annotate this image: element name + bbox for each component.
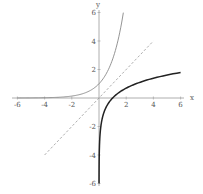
ln-curve xyxy=(99,72,181,183)
y-tick-label: -4 xyxy=(89,152,96,160)
chart: -6-4-2246642-2-4-6 x y xyxy=(0,0,203,194)
x-tick-label: 4 xyxy=(151,101,156,109)
x-tick-label: -6 xyxy=(14,101,21,109)
x-tick-label: -4 xyxy=(41,101,48,109)
x-tick-label: 6 xyxy=(178,101,183,109)
exp-curve xyxy=(17,13,123,98)
y-tick-label: 2 xyxy=(92,66,96,74)
y-axis-label: y xyxy=(95,1,100,9)
y-tick-label: 4 xyxy=(92,38,97,46)
y-tick-label: 6 xyxy=(92,9,97,17)
x-tick-label: 2 xyxy=(124,101,128,109)
x-axis-label: x xyxy=(190,94,194,102)
x-tick-label: -2 xyxy=(68,101,75,109)
y-tick-label: -2 xyxy=(89,123,96,131)
y-tick-label: -6 xyxy=(89,180,96,188)
